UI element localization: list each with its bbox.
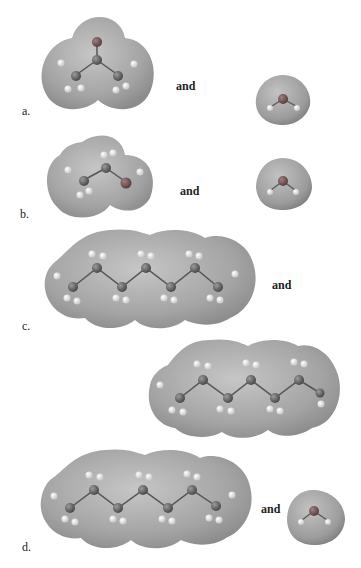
and-text-b: and xyxy=(180,184,199,199)
heptane-molecule-c2 xyxy=(149,339,340,437)
water-molecule-a xyxy=(256,75,310,125)
and-text-c: and xyxy=(272,278,291,293)
and-text-a: and xyxy=(176,79,195,94)
panel-label-d: d. xyxy=(22,540,31,555)
water-molecule-b xyxy=(256,158,312,210)
acetone-molecule xyxy=(42,17,154,109)
panel-label-a: a. xyxy=(22,104,30,119)
panel-label-c: c. xyxy=(22,319,30,334)
and-text-d: and xyxy=(261,502,280,517)
water-molecule-d xyxy=(287,490,345,545)
panel-label-b: b. xyxy=(20,207,29,222)
ethanol-molecule xyxy=(47,136,153,218)
heptane-molecule-c1 xyxy=(45,229,256,328)
heptane-molecule-d xyxy=(41,449,252,548)
